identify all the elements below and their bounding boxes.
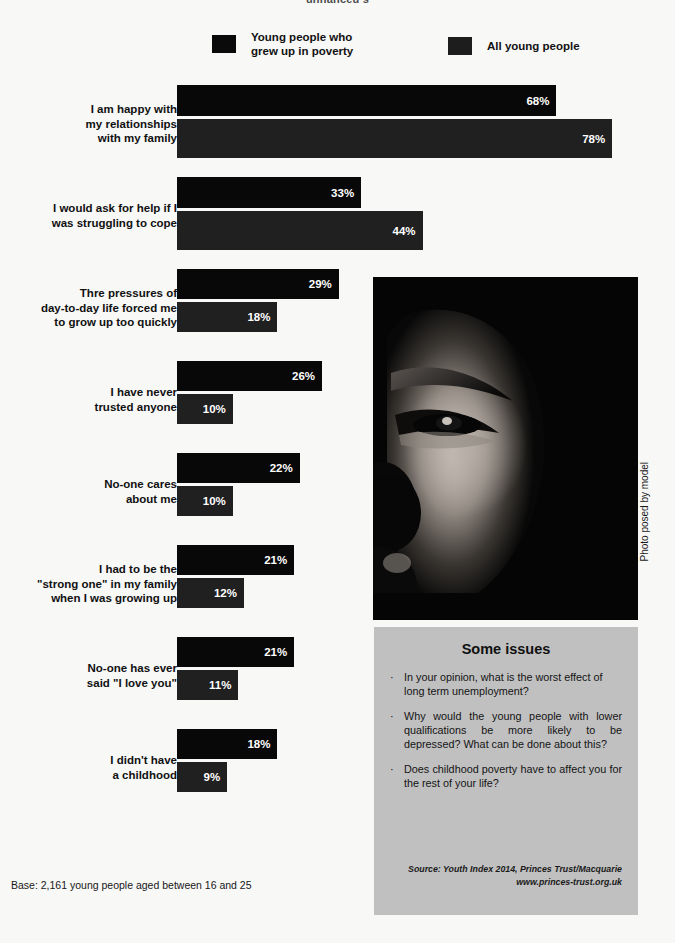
legend-label-poverty: Young people who grew up in poverty: [251, 30, 353, 58]
chart-row-label: I am happy with my relationships with my…: [0, 102, 177, 146]
bullet-icon: ·: [390, 762, 404, 790]
legend-label-all: All young people: [487, 39, 580, 53]
bar-all: 12%: [177, 578, 244, 608]
chart-row: I would ask for help if I was struggling…: [0, 170, 675, 262]
bar-value-label: 11%: [209, 679, 231, 691]
some-issues-panel: Some issues · In your opinion, what is t…: [374, 627, 638, 915]
legend-swatch-icon-all: [448, 37, 472, 55]
bar-value-label: 10%: [203, 495, 226, 507]
bar-poverty: 33%: [177, 177, 361, 208]
bar-value-label: 10%: [203, 403, 226, 415]
issue-item: · In your opinion, what is the worst eff…: [390, 670, 622, 698]
bar-poverty: 21%: [177, 637, 294, 667]
base-note: Base: 2,161 young people aged between 16…: [11, 879, 252, 891]
bar-poverty: 18%: [177, 729, 277, 759]
issue-text: Does childhood poverty have to affect yo…: [404, 762, 622, 790]
bar-value-label: 29%: [309, 278, 332, 290]
chart-row-label: Thre pressures of day-to-day life forced…: [0, 286, 177, 330]
bar-value-label: 68%: [526, 95, 549, 107]
bar-value-label: 33%: [331, 187, 354, 199]
issue-item: · Does childhood poverty have to affect …: [390, 762, 622, 790]
bar-value-label: 26%: [292, 370, 315, 382]
bar-all: 18%: [177, 302, 277, 332]
bar-value-label: 21%: [264, 554, 287, 566]
legend-swatch-icon-poverty: [212, 35, 236, 53]
chart-row: I am happy with my relationships with my…: [0, 78, 675, 170]
issue-text: In your opinion, what is the worst effec…: [404, 670, 622, 698]
legend-item-poverty: Young people who grew up in poverty: [212, 30, 353, 58]
chart-row-bars: 22% 10%: [177, 453, 300, 516]
chart-row-bars: 21% 11%: [177, 637, 294, 700]
chart-row-label: I had to be the "strong one" in my famil…: [0, 562, 177, 606]
bar-value-label: 9%: [204, 771, 221, 783]
source-line-1: Source: Youth Index 2014, Princes Trust/…: [390, 863, 622, 876]
chart-row-bars: 26% 10%: [177, 361, 322, 424]
bar-value-label: 12%: [214, 587, 237, 599]
photo-credit: Photo posed by model: [639, 462, 650, 562]
bullet-icon: ·: [390, 670, 404, 698]
infographic-page: unnanceu s Young people who grew up in p…: [0, 0, 675, 943]
bar-value-label: 18%: [247, 738, 270, 750]
chart-row-bars: 29% 18%: [177, 269, 339, 332]
chart-row-bars: 18% 9%: [177, 729, 277, 792]
bar-all: 10%: [177, 394, 233, 424]
bar-poverty: 29%: [177, 269, 339, 299]
bar-poverty: 21%: [177, 545, 294, 575]
source-credit: Source: Youth Index 2014, Princes Trust/…: [390, 863, 622, 889]
chart-row-bars: 21% 12%: [177, 545, 294, 608]
bar-poverty: 22%: [177, 453, 300, 483]
clipped-title: unnanceu s: [0, 0, 675, 5]
some-issues-heading: Some issues: [390, 641, 622, 657]
chart-row-label: No-one cares about me: [0, 477, 177, 506]
chart-row-label: No-one has ever said "I love you": [0, 661, 177, 690]
bar-value-label: 22%: [270, 462, 293, 474]
legend-item-all: All young people: [448, 37, 580, 55]
issue-text: Why would the young people with lower qu…: [404, 709, 622, 751]
chart-row-bars: 68% 78%: [177, 85, 612, 158]
chart-legend: Young people who grew up in poverty All …: [0, 30, 675, 64]
chart-row-label: I didn't have a childhood: [0, 753, 177, 782]
bar-all: 9%: [177, 762, 227, 792]
bar-value-label: 78%: [582, 133, 605, 145]
photo-portrait: [373, 277, 638, 620]
bar-all: 78%: [177, 119, 612, 158]
bullet-icon: ·: [390, 709, 404, 751]
bar-poverty: 68%: [177, 85, 556, 116]
bar-value-label: 18%: [247, 311, 270, 323]
bar-all: 44%: [177, 211, 423, 250]
bar-value-label: 21%: [264, 646, 287, 658]
chart-row-label: I would ask for help if I was struggling…: [0, 201, 177, 230]
chart-row-label: I have never trusted anyone: [0, 385, 177, 414]
chart-row-bars: 33% 44%: [177, 177, 423, 250]
issue-item: · Why would the young people with lower …: [390, 709, 622, 751]
bar-all: 11%: [177, 670, 238, 700]
bar-poverty: 26%: [177, 361, 322, 391]
bar-all: 10%: [177, 486, 233, 516]
bar-value-label: 44%: [392, 225, 415, 237]
source-url: www.princes-trust.org.uk: [390, 876, 622, 889]
